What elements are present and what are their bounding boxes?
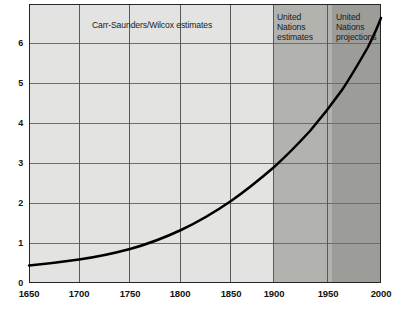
annotation-line-3: estimates [277, 32, 331, 42]
x-tick-1800: 1800 [157, 288, 203, 299]
y-tick-0: 0 [0, 279, 23, 288]
x-tick-label: 1800 [170, 288, 191, 299]
y-tick-2: 2 [0, 199, 23, 208]
band-un-projections [332, 4, 381, 283]
population-growth-chart: 6 5 4 3 2 1 0 1650 1700 1750 1800 1850 1… [0, 0, 397, 309]
y-tick-4: 4 [0, 119, 23, 128]
y-tick-label: 4 [18, 118, 23, 128]
annotation-text: Carr-Saunders/Wilcox estimates [92, 20, 212, 30]
annotation-line-1: United [336, 12, 392, 22]
y-tick-1: 1 [0, 239, 23, 248]
x-tick-1850: 1850 [208, 288, 254, 299]
annotation-line-2: Nations [336, 22, 392, 32]
chart-canvas [0, 0, 397, 309]
x-tick-label: 2000 [371, 288, 392, 299]
y-tick-label: 2 [18, 198, 23, 208]
x-tick-1650: 1650 [6, 288, 52, 299]
x-tick-1900: 1900 [251, 288, 297, 299]
y-tick-label: 6 [18, 38, 23, 48]
annotation-un-estimates: United Nations estimates [277, 12, 331, 43]
y-tick-5: 5 [0, 79, 23, 88]
annotation-line-1: United [277, 12, 331, 22]
x-tick-label: 1650 [19, 288, 40, 299]
x-tick-label: 1700 [69, 288, 90, 299]
x-tick-1750: 1750 [107, 288, 153, 299]
x-tick-label: 1950 [318, 288, 339, 299]
annotation-line-3: projections [336, 32, 392, 42]
y-tick-6: 6 [0, 39, 23, 48]
y-tick-label: 3 [18, 158, 23, 168]
x-tick-2000: 2000 [358, 288, 397, 299]
annotation-line-2: Nations [277, 22, 331, 32]
x-tick-label: 1750 [120, 288, 141, 299]
x-tick-label: 1900 [264, 288, 285, 299]
y-tick-3: 3 [0, 159, 23, 168]
y-tick-label: 1 [18, 238, 23, 248]
y-tick-label: 5 [18, 78, 23, 88]
y-tick-label: 0 [18, 278, 23, 288]
band-un-estimates [273, 4, 332, 283]
annotation-un-projections: United Nations projections [336, 12, 392, 43]
x-tick-1950: 1950 [305, 288, 351, 299]
x-tick-1700: 1700 [56, 288, 102, 299]
annotation-carr-saunders: Carr-Saunders/Wilcox estimates [34, 20, 270, 30]
x-tick-label: 1850 [221, 288, 242, 299]
